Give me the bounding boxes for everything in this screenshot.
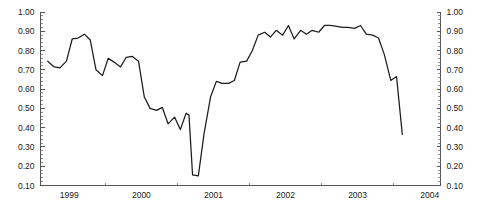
left-axis-tick-label: 0.30: [18, 142, 35, 152]
left-axis: 1.000.900.800.700.600.500.400.300.200.10: [18, 7, 45, 191]
right-axis-tick-label: 1.00: [447, 7, 464, 17]
right-axis-tick-label: 0.80: [447, 46, 464, 56]
right-axis-tick-label: 0.30: [447, 142, 464, 152]
left-axis-tick-label: 0.50: [18, 103, 35, 113]
left-axis-tick-label: 1.00: [18, 7, 35, 17]
x-axis-tick-label: 2003: [348, 190, 367, 200]
right-axis-tick-label: 0.20: [447, 161, 464, 171]
left-axis-tick-label: 0.40: [18, 123, 35, 133]
left-axis-tick-label: 0.60: [18, 84, 35, 94]
x-axis-tick-labels: 199920002001200220032004: [60, 190, 440, 200]
x-axis-tick-label: 2000: [132, 190, 151, 200]
left-axis-tick-labels: 1.000.900.800.700.600.500.400.300.200.10: [18, 7, 35, 191]
data-series-line: [48, 25, 403, 175]
x-axis-tick-label: 1999: [60, 190, 79, 200]
left-axis-tick-label: 0.20: [18, 161, 35, 171]
left-axis-tick-label: 0.80: [18, 46, 35, 56]
left-axis-tick-label: 0.10: [18, 181, 35, 191]
bottom-axis: 199920002001200220032004: [41, 183, 441, 200]
line-chart: 1.000.900.800.700.600.500.400.300.200.10…: [0, 0, 500, 210]
x-axis-tick-label: 2001: [204, 190, 223, 200]
right-axis-tick-label: 0.10: [447, 181, 464, 191]
right-axis-major-ticks: [437, 12, 441, 186]
right-axis: 1.000.900.800.700.600.500.400.300.200.10: [437, 7, 464, 191]
right-axis-tick-label: 0.50: [447, 103, 464, 113]
x-axis-tick-label: 2002: [276, 190, 295, 200]
right-axis-tick-label: 0.90: [447, 26, 464, 36]
x-axis-tick-label: 2004: [420, 190, 439, 200]
left-axis-major-ticks: [41, 12, 45, 186]
right-axis-tick-label: 0.70: [447, 65, 464, 75]
right-axis-tick-label: 0.60: [447, 84, 464, 94]
left-axis-tick-label: 0.90: [18, 26, 35, 36]
plot-area: [48, 25, 403, 175]
chart-container: 1.000.900.800.700.600.500.400.300.200.10…: [0, 0, 500, 210]
right-axis-tick-labels: 1.000.900.800.700.600.500.400.300.200.10: [447, 7, 464, 191]
left-axis-tick-label: 0.70: [18, 65, 35, 75]
right-axis-tick-label: 0.40: [447, 123, 464, 133]
